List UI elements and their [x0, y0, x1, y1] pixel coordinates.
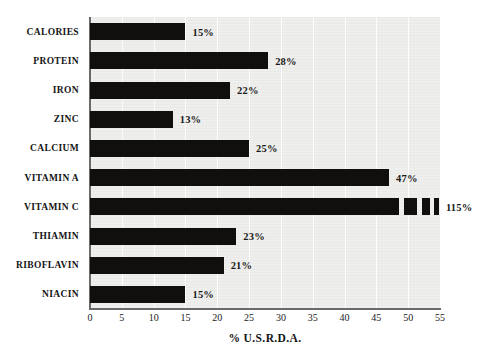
category-label: VITAMIN A	[25, 173, 79, 183]
x-tick-label: 15	[180, 312, 190, 323]
bar	[90, 82, 230, 99]
bar-series: 15%28%22%13%25%47%115%23%21%15%	[90, 17, 440, 309]
bar-value-label: 25%	[256, 143, 278, 154]
bar-value-label: 22%	[237, 85, 259, 96]
bar-row: 15%	[90, 286, 440, 303]
bar	[90, 198, 399, 215]
category-label: THIAMIN	[33, 231, 79, 241]
x-tick-label: 35	[308, 312, 318, 323]
category-label: IRON	[53, 85, 79, 95]
bar-row: 115%	[90, 198, 440, 215]
x-tick-label: 55	[435, 312, 445, 323]
x-tick-label: 30	[276, 312, 286, 323]
x-axis-title: % U.S.R.D.A.	[90, 332, 440, 344]
bar-value-label: 15%	[192, 26, 214, 37]
gridline	[440, 17, 441, 309]
x-tick-label: 40	[340, 312, 350, 323]
category-label: CALORIES	[27, 27, 79, 37]
bar-break-segment	[422, 198, 430, 215]
category-label: ZINC	[54, 114, 79, 124]
bar-break-segment	[404, 198, 417, 215]
bar	[90, 169, 389, 186]
bar-row: 47%	[90, 169, 440, 186]
category-label: CALCIUM	[30, 143, 79, 153]
bar-row: 25%	[90, 140, 440, 157]
category-label: RIBOFLAVIN	[16, 260, 79, 270]
category-axis-labels: CALORIESPROTEINIRONZINCCALCIUMVITAMIN AV…	[0, 0, 84, 356]
bar	[90, 140, 249, 157]
bar-break-segment	[434, 198, 440, 215]
bar-value-label: 23%	[243, 231, 265, 242]
bar-row: 22%	[90, 82, 440, 99]
bar	[90, 228, 236, 245]
bar-row: 21%	[90, 257, 440, 274]
bar-chart: CALORIESPROTEINIRONZINCCALCIUMVITAMIN AV…	[0, 0, 501, 356]
bar-value-label: 115%	[446, 201, 472, 212]
bar-row: 28%	[90, 52, 440, 69]
bar	[90, 286, 185, 303]
bar	[90, 111, 173, 128]
category-label: PROTEIN	[33, 56, 79, 66]
bar-value-label: 21%	[231, 260, 253, 271]
bar-row: 15%	[90, 23, 440, 40]
x-axis-tick-labels: 0510152025303540455055	[90, 312, 440, 330]
bar-row: 23%	[90, 228, 440, 245]
bar-value-label: 47%	[396, 172, 418, 183]
x-tick-label: 20	[212, 312, 222, 323]
bar-value-label: 13%	[180, 114, 202, 125]
bar	[90, 257, 224, 274]
bar-value-label: 15%	[192, 289, 214, 300]
x-tick-label: 5	[119, 312, 124, 323]
x-tick-label: 25	[244, 312, 254, 323]
x-tick-label: 0	[88, 312, 93, 323]
x-tick-label: 45	[371, 312, 381, 323]
x-tick-label: 50	[403, 312, 413, 323]
bar-value-label: 28%	[275, 55, 297, 66]
category-label: VITAMIN C	[24, 202, 79, 212]
bar	[90, 23, 185, 40]
bar-row: 13%	[90, 111, 440, 128]
category-label: NIACIN	[42, 289, 79, 299]
bar	[90, 52, 268, 69]
x-tick-label: 10	[149, 312, 159, 323]
